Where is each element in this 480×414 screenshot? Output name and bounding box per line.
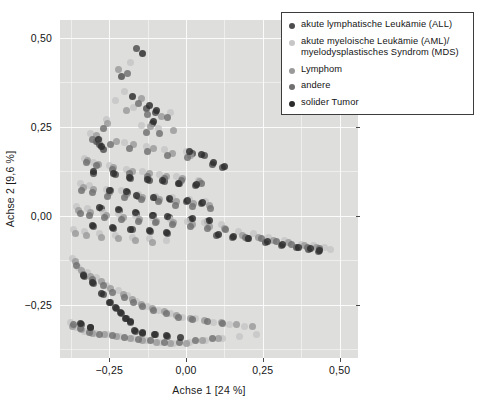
data-point	[100, 282, 107, 289]
data-point	[198, 151, 205, 158]
data-point	[204, 225, 211, 232]
data-point	[107, 141, 114, 148]
data-point	[135, 218, 142, 225]
data-point	[222, 226, 229, 233]
data-point	[279, 241, 286, 248]
data-point	[209, 335, 216, 342]
data-point	[135, 100, 142, 107]
data-point	[123, 188, 130, 195]
data-point	[215, 335, 222, 342]
data-point	[207, 205, 214, 212]
data-point	[106, 187, 113, 194]
data-point	[153, 339, 160, 346]
legend-item-label: andere	[301, 80, 331, 92]
data-point	[133, 192, 140, 199]
data-point	[101, 214, 108, 221]
data-point	[210, 319, 217, 326]
data-point	[146, 227, 153, 234]
data-point	[151, 331, 158, 338]
data-point	[230, 233, 237, 240]
data-point	[264, 238, 271, 245]
data-point	[89, 279, 96, 286]
data-point	[146, 102, 153, 109]
data-point	[164, 213, 171, 220]
data-point	[189, 215, 196, 222]
data-point	[127, 318, 134, 325]
data-point	[104, 193, 111, 200]
data-point	[118, 216, 125, 223]
legend-item[interactable]: andere	[288, 80, 466, 92]
x-tick-mark	[263, 358, 264, 362]
data-point	[144, 148, 151, 155]
data-point	[144, 176, 151, 183]
legend-marker-icon	[289, 101, 295, 107]
data-point	[131, 327, 138, 334]
legend-item-label: akute myeloische Leukämie (AML)/myelodys…	[301, 36, 459, 59]
x-tick-mark	[186, 358, 187, 362]
data-point	[192, 337, 199, 344]
y-tick-mark	[356, 127, 360, 128]
legend-item[interactable]: akute myeloische Leukämie (AML)/myelodys…	[288, 36, 466, 59]
data-point	[98, 143, 105, 150]
data-point	[150, 307, 157, 314]
data-point	[121, 194, 128, 201]
data-point	[307, 245, 314, 252]
data-point	[115, 235, 122, 242]
data-point	[245, 235, 252, 242]
legend: akute lymphatische Leukämie (ALL)akute m…	[281, 12, 474, 115]
data-point	[109, 289, 116, 296]
data-point	[129, 93, 136, 100]
data-point	[115, 66, 122, 73]
data-point	[127, 226, 134, 233]
data-point	[143, 129, 150, 136]
data-point	[83, 232, 90, 239]
legend-marker-icon	[289, 40, 295, 46]
y-tick-label: 0,50	[31, 32, 52, 44]
data-point	[241, 323, 248, 330]
data-point	[210, 159, 217, 166]
x-tick-mark	[340, 358, 341, 362]
data-point	[163, 237, 170, 244]
data-point	[139, 50, 146, 57]
data-point	[127, 59, 134, 66]
data-point	[150, 118, 157, 125]
data-point	[121, 88, 128, 95]
data-point	[183, 340, 190, 347]
data-point	[72, 230, 79, 237]
legend-item[interactable]: solider Tumor	[288, 97, 466, 109]
data-point	[86, 212, 93, 219]
data-point	[316, 247, 323, 254]
x-tick-label: 0,00	[175, 364, 196, 376]
data-point	[327, 246, 334, 253]
data-point	[115, 206, 122, 213]
y-tick-mark	[356, 305, 360, 306]
data-point	[123, 107, 130, 114]
legend-item[interactable]: Lymphom	[288, 64, 466, 76]
data-point	[253, 331, 260, 338]
data-point	[149, 239, 156, 246]
data-point	[189, 203, 196, 210]
data-point	[78, 187, 85, 194]
data-point	[89, 222, 96, 229]
y-tick-label: 0,25	[31, 121, 52, 133]
data-point	[249, 323, 256, 330]
data-point	[113, 138, 120, 145]
data-point	[226, 321, 233, 328]
legend-marker-icon	[289, 68, 295, 74]
data-point	[189, 316, 196, 323]
data-point	[172, 202, 179, 209]
data-point	[95, 136, 102, 143]
x-tick-label: 0,25	[252, 364, 273, 376]
data-point	[77, 210, 84, 217]
legend-item[interactable]: akute lymphatische Leukämie (ALL)	[288, 19, 466, 31]
data-point	[89, 189, 96, 196]
y-tick-label: −0,25	[24, 299, 52, 311]
data-point	[150, 145, 157, 152]
data-point	[139, 329, 146, 336]
data-point	[163, 310, 170, 317]
data-point	[98, 290, 105, 297]
data-point	[187, 223, 194, 230]
data-point	[100, 125, 107, 132]
data-point	[152, 219, 159, 226]
data-point	[149, 212, 156, 219]
